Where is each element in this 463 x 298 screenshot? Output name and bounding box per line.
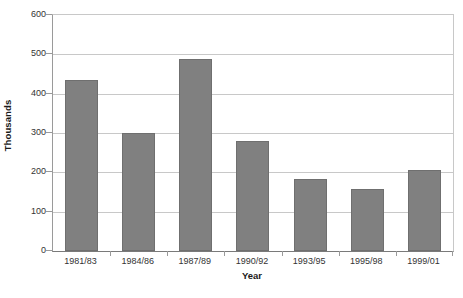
bar xyxy=(65,80,98,251)
x-tick-label: 1999/01 xyxy=(395,256,452,266)
y-tick-label: 400 xyxy=(12,88,46,98)
x-tick-label: 1987/89 xyxy=(166,256,223,266)
bar-cell xyxy=(167,15,224,251)
bar-series xyxy=(53,15,453,251)
x-tick-label: 1981/83 xyxy=(52,256,109,266)
bar xyxy=(236,141,269,251)
bar-cell xyxy=(282,15,339,251)
x-axis-title: Year xyxy=(52,270,452,281)
bar xyxy=(179,59,212,251)
y-tick-label: 0 xyxy=(12,245,46,255)
bar xyxy=(122,133,155,251)
bar xyxy=(408,170,441,251)
y-axis-tick-labels: 600 500 400 300 200 100 0 xyxy=(12,0,46,298)
x-tick-mark xyxy=(452,251,453,256)
bar-chart: Thousands 600 500 400 300 200 100 0 1981… xyxy=(0,0,463,298)
x-tick-label: 1993/95 xyxy=(281,256,338,266)
plot-area xyxy=(52,14,454,252)
bar-cell xyxy=(224,15,281,251)
x-tick-label: 1984/86 xyxy=(109,256,166,266)
bar-cell xyxy=(110,15,167,251)
y-tick-label: 100 xyxy=(12,206,46,216)
bar-cell xyxy=(339,15,396,251)
x-axis-tick-labels: 1981/83 1984/86 1987/89 1990/92 1993/95 … xyxy=(52,256,452,266)
x-tick-label: 1995/98 xyxy=(338,256,395,266)
bar-cell xyxy=(53,15,110,251)
bar xyxy=(294,179,327,251)
x-tick-label: 1990/92 xyxy=(223,256,280,266)
y-tick-label: 300 xyxy=(12,127,46,137)
y-tick-label: 600 xyxy=(12,9,46,19)
y-tick-label: 200 xyxy=(12,166,46,176)
bar-cell xyxy=(396,15,453,251)
y-tick-label: 500 xyxy=(12,48,46,58)
bar xyxy=(351,189,384,251)
